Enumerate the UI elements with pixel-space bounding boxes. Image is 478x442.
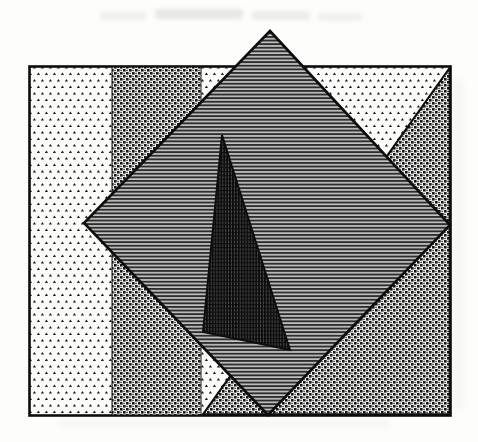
scan-bleed-mark: [318, 13, 362, 21]
scan-edge-shade: [453, 80, 464, 410]
scan-bleed-mark: [155, 9, 243, 19]
scan-bleed-mark: [100, 12, 146, 20]
scan-edge-shade: [60, 419, 390, 428]
figure-canvas: [0, 0, 478, 442]
scan-bleed-mark: [252, 11, 310, 20]
pattern-demo-figure: [0, 0, 478, 442]
shape-layer: [30, 31, 451, 416]
